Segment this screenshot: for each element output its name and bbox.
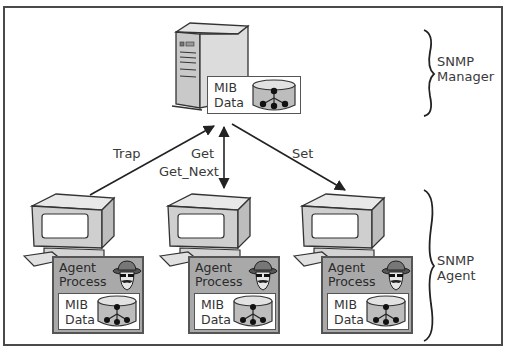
spy-agent-icon (112, 260, 142, 292)
process-label: Process (195, 275, 242, 289)
database-cylinder-icon (231, 294, 275, 328)
set-label: Set (292, 146, 313, 161)
agent-mib-data-box: MIB Data (194, 293, 276, 330)
agent-mib-data-box: MIB Data (327, 293, 409, 330)
agent-process-box: Agent Process MIB Data (52, 256, 144, 334)
agent-mib-data-box: MIB Data (58, 293, 140, 330)
spy-agent-icon (381, 260, 411, 292)
get-label: Get (191, 146, 214, 161)
agent-label: Agent (195, 261, 242, 275)
agent-label: Agent (59, 261, 106, 275)
get-next-label: Get_Next (159, 164, 219, 179)
database-cylinder-icon (95, 294, 139, 328)
process-label: Process (328, 275, 375, 289)
database-cylinder-icon (364, 294, 408, 328)
agent-label: Agent (328, 261, 375, 275)
trap-label: Trap (113, 146, 141, 161)
agent-process-box: Agent Process MIB Data (188, 256, 280, 334)
spy-agent-icon (248, 260, 278, 292)
set-arrow (232, 124, 345, 190)
agent-process-box: Agent Process MIB Data (321, 256, 413, 334)
process-label: Process (59, 275, 106, 289)
